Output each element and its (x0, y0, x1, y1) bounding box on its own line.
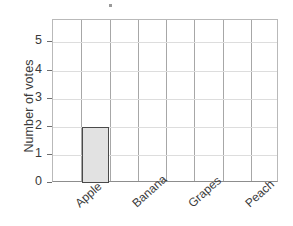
y-tick-mark (47, 126, 52, 127)
x-label-peach: Peach (242, 177, 277, 210)
vertical-gridline (110, 20, 111, 181)
plot-area (52, 19, 278, 182)
y-tick-label: 3 (18, 90, 42, 104)
horizontal-gridline (53, 71, 277, 72)
horizontal-gridline (53, 42, 277, 43)
speck-artifact (109, 4, 112, 7)
y-tick-mark (47, 182, 52, 183)
y-tick-mark (47, 154, 52, 155)
y-tick-label: 4 (18, 62, 42, 76)
y-tick-label: 5 (18, 33, 42, 47)
vertical-gridline (166, 20, 167, 181)
bar-chart: Number of votes 012345 AppleBananaGrapes… (0, 0, 293, 226)
y-tick-mark (47, 41, 52, 42)
vertical-gridline (194, 20, 195, 181)
bar-apple (82, 127, 110, 183)
y-tick-mark (47, 98, 52, 99)
horizontal-gridline (53, 99, 277, 100)
vertical-gridline (223, 20, 224, 181)
y-tick-label: 2 (18, 118, 42, 132)
y-tick-mark (47, 70, 52, 71)
x-label-apple: Apple (73, 179, 105, 210)
y-tick-label: 1 (18, 146, 42, 160)
vertical-gridline (138, 20, 139, 181)
vertical-gridline (251, 20, 252, 181)
y-tick-label: 0 (18, 174, 42, 188)
